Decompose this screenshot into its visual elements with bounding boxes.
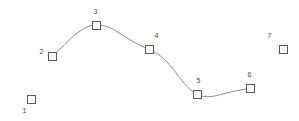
data-point-label-2: 2 — [40, 48, 44, 56]
data-point-label-4: 4 — [155, 32, 159, 40]
data-point-marker-6[interactable] — [246, 84, 255, 93]
data-point-marker-3[interactable] — [92, 21, 101, 30]
data-point-marker-1[interactable] — [27, 95, 36, 104]
data-point-label-5: 5 — [197, 77, 201, 85]
data-point-marker-2[interactable] — [48, 52, 57, 61]
series-curve-path — [53, 25, 251, 97]
data-point-label-7: 7 — [268, 32, 272, 40]
data-point-marker-5[interactable] — [193, 90, 202, 99]
data-point-marker-7[interactable] — [279, 45, 288, 54]
scatter-plot-canvas: 1234567 — [0, 0, 299, 121]
connecting-curve-layer — [0, 0, 299, 121]
data-point-label-1: 1 — [23, 107, 27, 115]
data-point-label-6: 6 — [248, 71, 252, 79]
data-point-label-3: 3 — [94, 8, 98, 16]
data-point-marker-4[interactable] — [145, 45, 154, 54]
